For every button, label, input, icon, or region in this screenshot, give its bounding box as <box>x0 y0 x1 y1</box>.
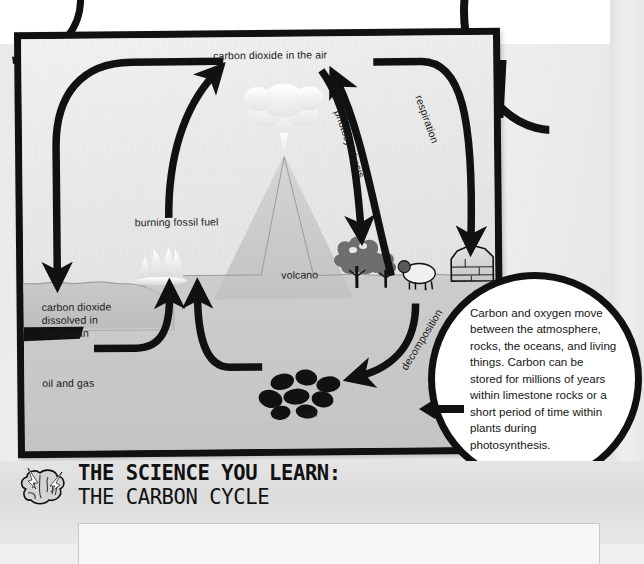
diagram-canvas: carbon dioxide in the air burning fossil… <box>21 35 497 452</box>
label-co2-dissolved-ocean: carbon dioxide dissolved in the ocean <box>42 300 112 339</box>
arrow-air-to-limestone <box>373 61 471 240</box>
banner-title: THE SCIENCE YOU LEARN: THE CARBON CYCLE <box>78 463 341 509</box>
label-burning-fossil-fuel: burning fossil fuel <box>135 215 219 229</box>
callout-text: Carbon and oxygen move between the atmos… <box>470 305 618 453</box>
brain-icon <box>14 467 72 509</box>
label-oil-and-gas: oil and gas <box>42 377 94 390</box>
limestone-icon <box>451 245 493 281</box>
arrow-burning-to-air <box>167 75 214 217</box>
flame-icon <box>135 248 187 285</box>
label-volcano: volcano <box>281 268 318 281</box>
callout-circle: Carbon and oxygen move between the atmos… <box>428 272 642 486</box>
callout-pointer-arrow-icon <box>418 398 464 420</box>
banner-content-box <box>78 523 600 564</box>
label-coal: coal <box>298 406 318 419</box>
section-banner: THE SCIENCE YOU LEARN: THE CARBON CYCLE <box>0 461 644 544</box>
banner-title-line1: THE SCIENCE YOU LEARN: <box>78 463 341 485</box>
banner-title-line2: THE CARBON CYCLE <box>78 485 341 509</box>
label-co2-in-air: carbon dioxide in the air <box>213 48 327 62</box>
volcano-plume <box>243 83 324 155</box>
